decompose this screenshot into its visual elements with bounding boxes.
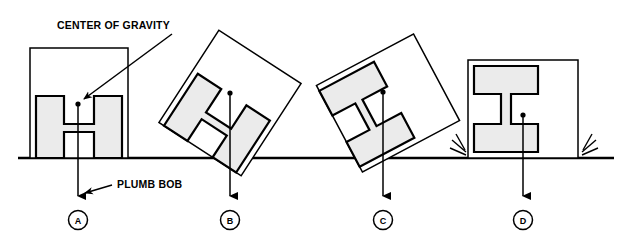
callout-c-label: C — [380, 216, 387, 226]
center-of-gravity-label: CENTER OF GRAVITY — [57, 19, 170, 31]
diagram-canvas: CENTER OF GRAVITY PLUMB BOB A B C D — [0, 0, 632, 241]
callout-c: C — [374, 211, 393, 230]
callout-a-label: A — [75, 216, 82, 226]
callout-d-label: D — [520, 216, 527, 226]
callout-a: A — [69, 211, 88, 230]
callout-b: B — [221, 211, 240, 230]
plumb-bob-label: PLUMB BOB — [117, 178, 183, 190]
callout-d: D — [514, 211, 533, 230]
callout-b-label: B — [227, 216, 234, 226]
